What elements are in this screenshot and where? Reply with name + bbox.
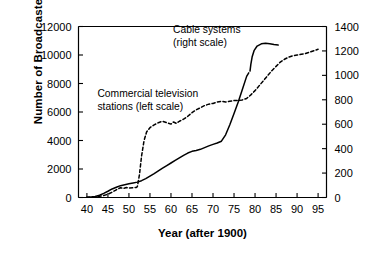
x-tick-label: 75: [228, 203, 240, 215]
x-tick-label: 45: [102, 203, 114, 215]
y-tick-label-left: 2000: [47, 163, 71, 175]
x-tick-label: 70: [207, 203, 219, 215]
y-tick-label-right: 200: [335, 167, 353, 179]
x-tick-label: 95: [312, 203, 324, 215]
series-line: [250, 43, 278, 71]
x-tick-label: 80: [249, 203, 261, 215]
x-tick-label: 65: [186, 203, 198, 215]
chart-container: Number of Broadcasters Year (after 1900)…: [0, 0, 386, 254]
y-tick-label-right: 1000: [335, 69, 359, 81]
y-tick-label-right: 0: [335, 192, 341, 204]
x-tick-label: 40: [81, 203, 93, 215]
commercial-tv-annotation-line2: stations (left scale): [97, 101, 183, 112]
y-tick-label-left: 4000: [47, 135, 71, 147]
y-tick-label-left: 12000: [41, 21, 72, 33]
x-tick-label: 90: [291, 203, 303, 215]
y-tick-label-left: 10000: [41, 49, 72, 61]
cable-systems-annotation-line2: (right scale): [173, 37, 227, 48]
y-tick-label-right: 1400: [335, 21, 359, 33]
y-tick-label-left: 8000: [47, 78, 71, 90]
y-tick-label-right: 800: [335, 94, 353, 106]
x-tick-label: 60: [165, 203, 177, 215]
x-tick-label: 85: [270, 203, 282, 215]
y-tick-label-right: 400: [335, 143, 353, 155]
y-tick-label-right: 600: [335, 118, 353, 130]
cable-systems-annotation: Cable systems: [173, 24, 241, 35]
tick-labels-layer: 4045505560657075808590950200040006000800…: [41, 21, 359, 215]
x-tick-label: 55: [144, 203, 156, 215]
series-layer: [87, 43, 318, 197]
series-line: [87, 49, 318, 197]
y-tick-label-left: 6000: [47, 106, 71, 118]
y-tick-label-left: 0: [65, 192, 71, 204]
commercial-tv-annotation: Commercial television: [97, 88, 198, 99]
annotations-layer: Cable systems(right scale)Commercial tel…: [97, 24, 240, 112]
chart-svg: 4045505560657075808590950200040006000800…: [0, 0, 386, 254]
x-tick-label: 50: [123, 203, 135, 215]
y-tick-label-right: 1200: [335, 45, 359, 57]
